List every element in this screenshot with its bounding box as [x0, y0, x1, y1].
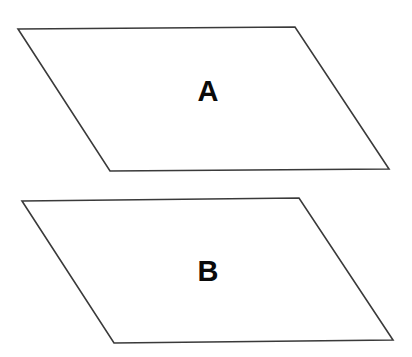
parallelogram-diagram: A B: [0, 0, 412, 357]
parallelogram-b-group: B: [22, 198, 393, 343]
label-a: A: [198, 75, 219, 107]
parallelogram-a-group: A: [18, 27, 389, 171]
label-b: B: [198, 255, 219, 287]
